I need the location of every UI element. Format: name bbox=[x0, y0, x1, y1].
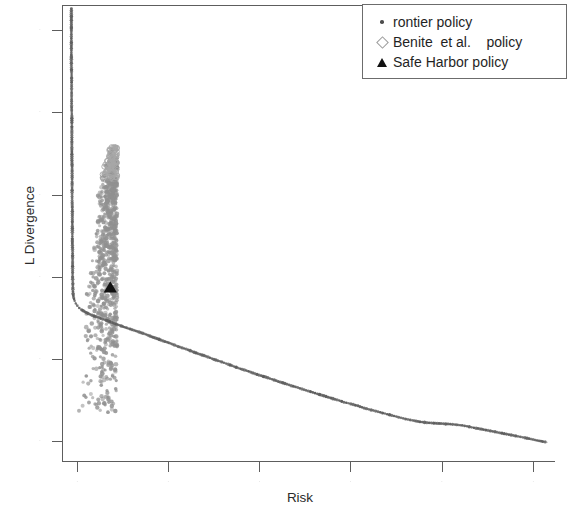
y-axis-tick bbox=[52, 359, 62, 360]
x-axis-tick-label: · bbox=[155, 480, 181, 484]
x-axis-title: Risk bbox=[0, 490, 571, 505]
x-axis-tick bbox=[350, 462, 351, 472]
y-axis-tick-label: · bbox=[14, 28, 40, 32]
y-axis-tick bbox=[52, 112, 62, 113]
x-axis-tick bbox=[533, 462, 534, 472]
benite-cloud bbox=[77, 145, 120, 414]
x-axis-tick bbox=[259, 462, 260, 472]
legend-label: Safe Harbor policy bbox=[393, 54, 508, 70]
y-axis-tick-label: · bbox=[14, 439, 40, 443]
y-axis-tick bbox=[52, 195, 62, 196]
y-axis-tick-label: · bbox=[14, 110, 40, 114]
legend-item-frontier: rontier policy bbox=[371, 12, 560, 32]
y-axis-tick-label: · bbox=[14, 193, 40, 197]
y-axis-title: L Divergence bbox=[22, 131, 37, 321]
open-diamond-icon bbox=[371, 38, 393, 47]
y-axis-tick bbox=[52, 30, 62, 31]
x-axis-tick-label: · bbox=[246, 480, 272, 484]
triangle-icon bbox=[371, 58, 393, 67]
x-axis-tick-label: · bbox=[64, 480, 90, 484]
y-axis-tick bbox=[52, 441, 62, 442]
x-axis-tick bbox=[77, 462, 78, 472]
x-axis-tick bbox=[168, 462, 169, 472]
x-axis-tick bbox=[442, 462, 443, 472]
legend-item-safe-harbor: Safe Harbor policy bbox=[371, 52, 560, 72]
y-axis-tick-label: · bbox=[14, 357, 40, 361]
legend: rontier policy Benite et al. policy Safe… bbox=[362, 4, 567, 79]
x-axis-tick-label: · bbox=[429, 480, 455, 484]
legend-label: Benite et al. policy bbox=[393, 34, 522, 50]
y-axis-tick bbox=[52, 277, 62, 278]
x-axis-tick-label: · bbox=[520, 480, 546, 484]
dot-icon bbox=[371, 20, 393, 24]
x-axis-tick-label: · bbox=[337, 480, 363, 484]
legend-label: rontier policy bbox=[393, 14, 472, 30]
legend-item-benite: Benite et al. policy bbox=[371, 32, 560, 52]
y-axis-tick-label: · bbox=[14, 275, 40, 279]
